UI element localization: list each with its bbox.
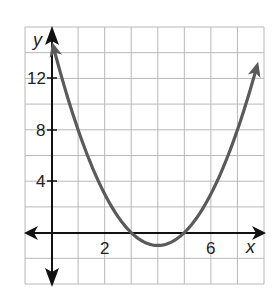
y-tick-4: 4 bbox=[36, 172, 45, 191]
x-tick-2: 2 bbox=[100, 239, 109, 258]
y-axis-label: y bbox=[31, 30, 43, 50]
y-tick-8: 8 bbox=[36, 121, 45, 140]
x-axis-label: x bbox=[245, 237, 256, 257]
x-tick-6: 6 bbox=[206, 239, 215, 258]
parabola-curve bbox=[55, 52, 256, 245]
x-axis bbox=[24, 226, 266, 240]
parabola-chart: y x 12 8 4 2 6 bbox=[0, 0, 278, 291]
y-tick-12: 12 bbox=[27, 69, 46, 88]
